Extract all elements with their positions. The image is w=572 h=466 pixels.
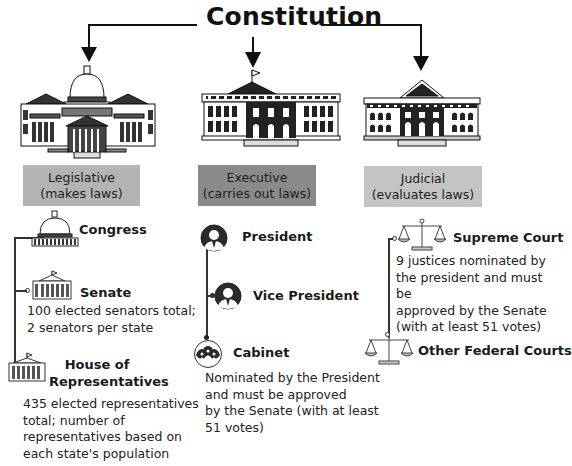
executive-tree-line bbox=[206, 240, 208, 338]
house-description: 435 elected representatives total; numbe… bbox=[23, 396, 199, 462]
legislative-branch-box: Legislative (makes laws) bbox=[23, 165, 140, 206]
senate-label: Senate bbox=[80, 285, 131, 300]
supreme-court-label: Supreme Court bbox=[453, 230, 563, 245]
supreme-court-scales-icon bbox=[396, 218, 448, 252]
senate-description: 100 elected senators total; 2 senators p… bbox=[27, 303, 196, 336]
judicial-branch-box: Judicial (evaluates laws) bbox=[364, 166, 482, 207]
white-house-icon bbox=[200, 68, 342, 150]
legislative-tree-line bbox=[14, 237, 16, 365]
capitol-building-icon bbox=[18, 64, 158, 160]
supreme-court-building-icon bbox=[362, 74, 482, 150]
branch-name: Judicial bbox=[364, 171, 482, 187]
senate-building-icon bbox=[31, 270, 73, 302]
capitol-dome-icon bbox=[30, 210, 80, 248]
president-label: President bbox=[242, 229, 313, 244]
supreme-court-description: 9 justices nominated by the president an… bbox=[396, 253, 561, 336]
judicial-tree-line bbox=[388, 238, 390, 338]
other-federal-courts-scales-icon bbox=[363, 332, 415, 366]
other-federal-courts-label: Other Federal Courts bbox=[418, 343, 572, 358]
congress-label: Congress bbox=[79, 222, 147, 237]
cabinet-description: Nominated by the President and must be a… bbox=[205, 370, 380, 436]
executive-branch-box: Executive (carries out laws) bbox=[198, 165, 316, 206]
president-person-icon bbox=[200, 224, 228, 252]
branch-name: Executive bbox=[198, 170, 316, 186]
diagram-title: Constitution bbox=[206, 2, 356, 31]
branch-role: (carries out laws) bbox=[198, 186, 316, 202]
house-label: House of Representatives bbox=[49, 356, 145, 390]
cabinet-group-icon bbox=[193, 339, 223, 369]
branch-name: Legislative bbox=[23, 170, 140, 186]
branch-role: (evaluates laws) bbox=[364, 187, 482, 203]
cabinet-label: Cabinet bbox=[233, 345, 289, 360]
vice-president-label: Vice President bbox=[253, 288, 359, 303]
branch-role: (makes laws) bbox=[23, 186, 140, 202]
vice-president-person-icon bbox=[214, 282, 242, 310]
house-building-icon bbox=[7, 352, 47, 384]
